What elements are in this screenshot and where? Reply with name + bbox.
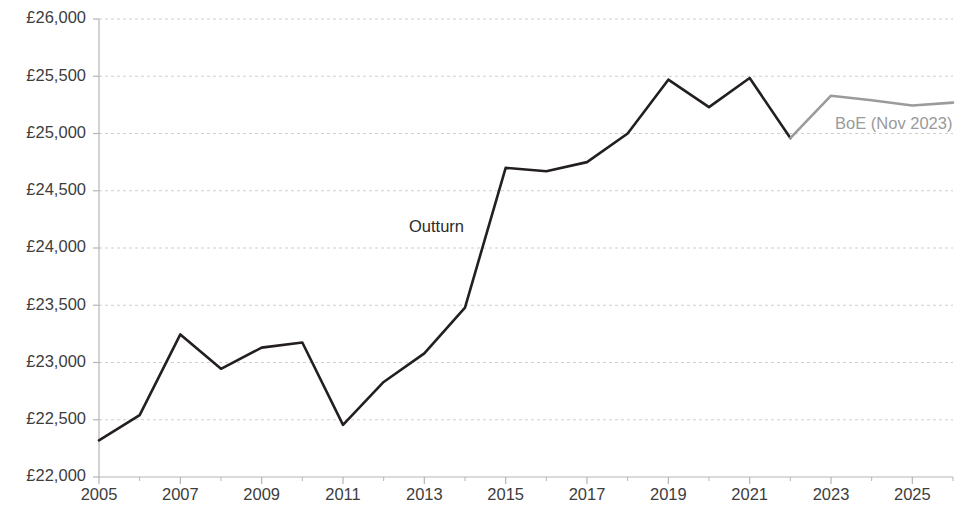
y-axis-tick-label: £25,500 [26,66,86,84]
y-axis-tick-labels: £22,000£22,500£23,000£23,500£24,000£24,5… [26,8,86,484]
x-axis-tick-labels: 2005200720092011201320152017201920212023… [81,485,931,503]
y-axis-tick-label: £24,500 [26,180,86,198]
x-axis-tick-label: 2023 [813,485,850,503]
x-axis-ticks [99,477,953,484]
annotation-outturn: Outturn [409,217,464,235]
y-axis-tick-label: £23,500 [26,295,86,313]
x-axis-tick-label: 2025 [894,485,931,503]
y-axis-tick-label: £25,000 [26,123,86,141]
data-series-group [99,78,953,440]
x-axis-tick-label: 2021 [731,485,768,503]
x-axis-tick-label: 2015 [487,485,524,503]
y-axis-tick-label: £24,000 [26,237,86,255]
line-chart: £22,000£22,500£23,000£23,500£24,000£24,5… [0,0,956,506]
y-axis-tick-label: £22,000 [26,466,86,484]
y-axis-ticks [93,19,99,477]
x-axis-tick-label: 2005 [81,485,118,503]
chart-plot-area: £22,000£22,500£23,000£23,500£24,000£24,5… [0,0,956,506]
x-axis-tick-label: 2017 [569,485,606,503]
annotation-boe-nov-2023: BoE (Nov 2023) [835,114,952,132]
x-axis-tick-label: 2011 [325,485,360,503]
x-axis-tick-label: 2007 [162,485,199,503]
x-axis-tick-label: 2009 [243,485,280,503]
y-axis-tick-label: £26,000 [26,8,86,26]
series-line-outturn [99,78,790,440]
gridlines [99,19,953,420]
y-axis-tick-label: £23,000 [26,352,86,370]
x-axis-tick-label: 2013 [406,485,443,503]
x-axis-tick-label: 2019 [650,485,687,503]
y-axis-tick-label: £22,500 [26,409,86,427]
